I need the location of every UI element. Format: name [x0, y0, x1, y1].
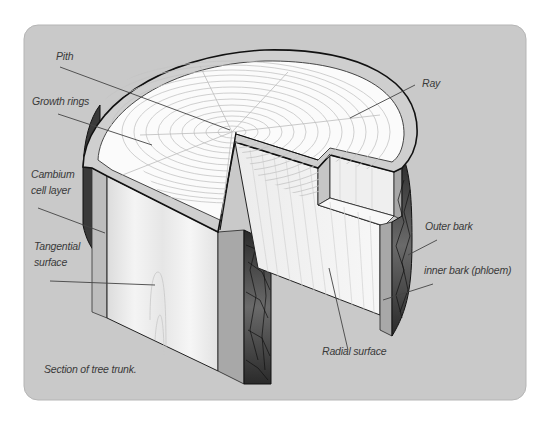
label-outer-bark: Outer bark	[425, 220, 473, 233]
front-sapwood-strip	[218, 230, 244, 384]
label-tangential-line2: surface	[34, 256, 67, 269]
label-inner-bark: inner bark (phloem)	[424, 264, 511, 277]
figure-caption: Section of tree trunk.	[44, 363, 136, 376]
label-cambium-line1: Cambium	[31, 168, 75, 181]
label-ray: Ray	[422, 77, 440, 90]
label-pith: Pith	[56, 50, 73, 63]
label-cambium-line2: cell layer	[31, 184, 70, 197]
tree-trunk-illustration	[0, 0, 549, 424]
left-cambium-strip	[92, 168, 107, 318]
diagram-figure: Pith Growth rings Cambium cell layer Tan…	[0, 0, 549, 424]
label-radial-surface: Radial surface	[322, 345, 386, 358]
right-sapwood-strip	[380, 222, 392, 336]
label-growth-rings: Growth rings	[32, 95, 89, 108]
label-tangential-line1: Tangential	[34, 240, 80, 253]
right-upper-strip	[394, 168, 402, 220]
